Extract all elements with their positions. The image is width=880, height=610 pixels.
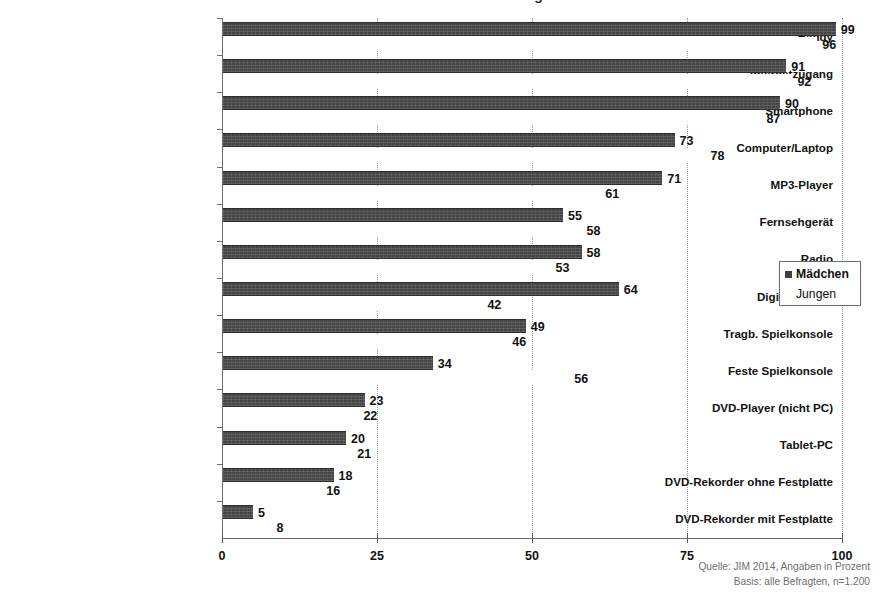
- bar-maedchen[interactable]: [223, 133, 675, 147]
- value-label-maedchen: 34: [438, 358, 452, 371]
- bar-jungen[interactable]: [223, 223, 582, 237]
- category-label: Tablet-PC: [573, 439, 833, 451]
- bar-row: Handy9996: [222, 18, 842, 55]
- dark-square-icon: [785, 271, 792, 278]
- bar-row: Tragb. Spielkonsole4946: [222, 315, 842, 352]
- bar-jungen[interactable]: [223, 520, 272, 534]
- value-label-jungen: 46: [512, 336, 526, 349]
- bar-maedchen[interactable]: [223, 208, 563, 222]
- category-tick: [217, 92, 222, 93]
- value-label-maedchen: 71: [667, 173, 681, 186]
- value-label-jungen: 42: [487, 299, 501, 312]
- bar-jungen[interactable]: [223, 37, 817, 51]
- bar-row: Digitalkamera6442: [222, 278, 842, 315]
- bar-maedchen[interactable]: [223, 431, 346, 445]
- value-label-maedchen: 18: [339, 470, 353, 483]
- value-label-jungen: 21: [357, 448, 371, 461]
- bar-maedchen[interactable]: [223, 96, 780, 110]
- bar-jungen[interactable]: [223, 148, 706, 162]
- value-label-maedchen: 90: [785, 98, 799, 111]
- category-label: Tragb. Spielkonsole: [573, 328, 833, 340]
- bar-jungen[interactable]: [223, 446, 352, 460]
- value-label-maedchen: 73: [680, 135, 694, 148]
- bar-jungen[interactable]: [223, 371, 569, 385]
- value-label-jungen: 87: [766, 113, 780, 126]
- value-label-maedchen: 49: [531, 321, 545, 334]
- value-label-jungen: 78: [711, 150, 725, 163]
- category-label: Fernsehgerät: [573, 216, 833, 228]
- category-tick: [217, 55, 222, 56]
- bar-jungen[interactable]: [223, 483, 321, 497]
- bar-jungen[interactable]: [223, 186, 600, 200]
- bar-maedchen[interactable]: [223, 59, 786, 73]
- bar-row: Feste Spielkonsole3456: [222, 352, 842, 389]
- value-label-maedchen: 91: [791, 61, 805, 74]
- legend-item-jungen[interactable]: Jungen: [785, 284, 836, 304]
- x-tick-100: [842, 533, 843, 543]
- bar-row: Computer/Laptop7378: [222, 129, 842, 166]
- category-tick: [217, 129, 222, 130]
- value-label-jungen: 96: [822, 39, 836, 52]
- category-label: DVD-Rekorder ohne Festplatte: [573, 476, 833, 488]
- value-label-maedchen: 99: [841, 24, 855, 37]
- category-tick: [217, 352, 222, 353]
- bar-maedchen[interactable]: [223, 282, 619, 296]
- bar-jungen[interactable]: [223, 408, 358, 422]
- value-label-jungen: 16: [326, 485, 340, 498]
- bar-maedchen[interactable]: [223, 245, 582, 259]
- plot-area: 0255075100 Handy9996Internetzugang9192Sm…: [222, 18, 842, 538]
- bar-maedchen[interactable]: [223, 505, 253, 519]
- source-line-1: Quelle: JIM 2014, Angaben in Prozent: [698, 560, 870, 575]
- value-label-maedchen: 58: [587, 247, 601, 260]
- value-label-jungen: 58: [587, 225, 601, 238]
- bar-maedchen[interactable]: [223, 22, 836, 36]
- chart-container: Gerätebesitz Jugendlicher 2014 025507510…: [0, 0, 880, 610]
- bar-row: Tablet-PC2021: [222, 427, 842, 464]
- value-label-maedchen: 20: [351, 433, 365, 446]
- legend-item-label: Mädchen: [796, 267, 849, 281]
- category-tick: [217, 204, 222, 205]
- bar-maedchen[interactable]: [223, 356, 433, 370]
- bar-maedchen[interactable]: [223, 171, 662, 185]
- value-label-maedchen: 55: [568, 210, 582, 223]
- category-tick: [217, 427, 222, 428]
- category-tick: [217, 464, 222, 465]
- x-tick-label: 25: [370, 549, 384, 563]
- bar-jungen[interactable]: [223, 297, 482, 311]
- value-label-maedchen: 64: [624, 284, 638, 297]
- value-label-jungen: 22: [363, 410, 377, 423]
- category-label: DVD-Player (nicht PC): [573, 402, 833, 414]
- category-label: Feste Spielkonsole: [573, 365, 833, 377]
- bar-maedchen[interactable]: [223, 393, 365, 407]
- x-tick-label: 75: [680, 549, 694, 563]
- legend-item-maedchen[interactable]: Mädchen: [785, 264, 849, 284]
- category-tick: [217, 18, 222, 19]
- source-note: Quelle: JIM 2014, Angaben in Prozent Bas…: [698, 560, 870, 590]
- bar-row: Smartphone9087: [222, 92, 842, 129]
- category-tick: [217, 167, 222, 168]
- bar-row: Internetzugang9192: [222, 55, 842, 92]
- value-label-jungen: 53: [556, 262, 570, 275]
- bar-jungen[interactable]: [223, 260, 551, 274]
- bar-maedchen[interactable]: [223, 319, 526, 333]
- value-label-jungen: 56: [574, 373, 588, 386]
- chart-title-text: Gerätebesitz Jugendlicher 2014: [430, 0, 640, 3]
- legend-item-label: Jungen: [796, 287, 836, 301]
- bar-maedchen[interactable]: [223, 468, 334, 482]
- category-tick: [217, 389, 222, 390]
- x-tick-label: 50: [525, 549, 539, 563]
- chart-legend: Mädchen Jungen: [779, 261, 861, 306]
- value-label-jungen: 92: [797, 76, 811, 89]
- source-line-2: Basis: alle Befragten, n=1.200: [698, 575, 870, 590]
- bar-jungen[interactable]: [223, 111, 761, 125]
- category-tick: [217, 501, 222, 502]
- category-tick: [217, 315, 222, 316]
- bar-jungen[interactable]: [223, 74, 792, 88]
- category-tick: [217, 278, 222, 279]
- bar-row: DVD-Player (nicht PC)2322: [222, 389, 842, 426]
- bar-row: MP3-Player7161: [222, 167, 842, 204]
- value-label-maedchen: 5: [258, 507, 265, 520]
- white-square-icon: [785, 291, 792, 298]
- bar-jungen[interactable]: [223, 334, 507, 348]
- bar-row: DVD-Rekorder ohne Festplatte1816: [222, 464, 842, 501]
